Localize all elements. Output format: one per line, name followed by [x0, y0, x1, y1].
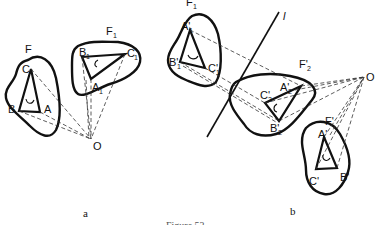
svg-text:2: 2 — [278, 129, 282, 136]
svg-text:1: 1 — [193, 3, 197, 10]
label-Fp: F' — [325, 115, 334, 127]
label-Cp: C' — [309, 175, 319, 187]
panel-b: l F 1 — [168, 0, 375, 217]
label-A: A — [44, 103, 52, 115]
svg-text:1: 1 — [216, 69, 220, 76]
label-F1: F — [106, 25, 113, 37]
orientation-arrow — [274, 104, 277, 112]
label-Bp: B' — [340, 171, 349, 183]
svg-text:1: 1 — [86, 53, 90, 60]
label-O: O — [93, 140, 102, 152]
svg-text:2: 2 — [307, 65, 311, 72]
orientation-arrow — [95, 60, 98, 67]
svg-text:1: 1 — [113, 32, 117, 39]
label-l: l — [283, 10, 286, 22]
orientation-arrow — [26, 99, 34, 103]
label-F: F — [25, 43, 32, 55]
label-Ap: A' — [318, 128, 327, 140]
svg-text:1: 1 — [99, 88, 103, 95]
label-B: B — [8, 103, 15, 115]
figure-caption: Figure 53 — [166, 220, 205, 225]
label-O: O — [366, 71, 375, 83]
panel-a: F F 1 C B A B 1 C 1 A 1 O a — [6, 25, 141, 219]
svg-text:2: 2 — [288, 88, 292, 95]
svg-text:Figure 53: Figure 53 — [166, 220, 205, 225]
orientation-arrow — [323, 155, 330, 160]
svg-text:1: 1 — [134, 54, 138, 61]
svg-text:2: 2 — [268, 96, 272, 103]
triangle-ApBpCp — [316, 137, 337, 169]
label-F1: F — [186, 0, 193, 8]
figure-F1-outline — [168, 14, 221, 86]
panel-label-a: a — [83, 207, 88, 219]
svg-text:1: 1 — [177, 63, 181, 70]
geometry-figure: F F 1 C B A B 1 C 1 A 1 O a l — [0, 0, 376, 225]
panel-label-b: b — [290, 205, 296, 217]
orientation-arrow — [188, 55, 198, 59]
label-C: C — [22, 63, 30, 75]
svg-text:1: 1 — [189, 27, 193, 34]
triangle-A1pB1pC1p — [180, 30, 205, 68]
